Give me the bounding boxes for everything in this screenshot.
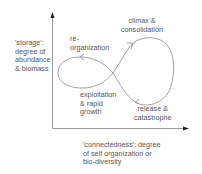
phase-exploitation-label: exploitation & rapid growth bbox=[80, 91, 116, 117]
phase-climax-label: climax & consolidation bbox=[121, 17, 163, 34]
y-axis-arrow-icon bbox=[51, 12, 55, 18]
y-axis-label: 'storage': degree of abundance & biomass bbox=[15, 39, 51, 73]
phase-reorganization-label: re- organization bbox=[70, 35, 109, 52]
phase-release-label: release & catastrophe bbox=[134, 105, 172, 122]
x-axis-arrow-icon bbox=[183, 127, 189, 131]
x-axis-label: 'connectedness': degree of self organiza… bbox=[83, 141, 160, 167]
